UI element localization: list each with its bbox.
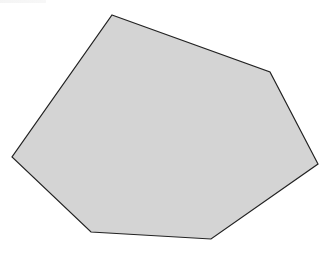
diagram-canvas	[0, 0, 329, 253]
hexagon-shape	[12, 15, 318, 239]
